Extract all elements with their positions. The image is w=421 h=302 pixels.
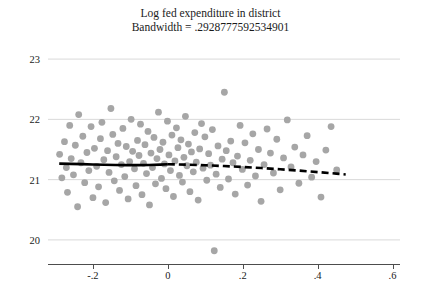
x-tick-label: .6 — [389, 270, 397, 281]
x-tick-label: 0 — [165, 270, 170, 281]
plot-area — [48, 38, 400, 264]
x-axis-line — [48, 264, 400, 265]
x-tick-mark — [393, 265, 394, 269]
x-tick-mark — [93, 265, 94, 269]
x-tick-label: .4 — [314, 270, 322, 281]
y-tick-label: 20 — [30, 234, 41, 245]
y-tick-label: 21 — [30, 174, 41, 185]
chart-title-block: Log fed expenditure in district Bandwidt… — [0, 6, 421, 34]
fit-line-dashed — [168, 164, 346, 174]
fit-line-solid — [59, 164, 168, 166]
chart-title: Log fed expenditure in district — [0, 6, 421, 20]
x-tick-mark — [243, 265, 244, 269]
x-tick-label: -.2 — [87, 270, 98, 281]
y-tick-label: 22 — [30, 114, 41, 125]
chart-container: Log fed expenditure in district Bandwidt… — [0, 0, 421, 302]
x-tick-mark — [318, 265, 319, 269]
x-tick-mark — [168, 265, 169, 269]
fit-lines — [48, 38, 400, 264]
chart-subtitle: Bandwidth = .2928777592534901 — [0, 20, 421, 34]
x-tick-label: .2 — [239, 270, 247, 281]
y-tick-label: 23 — [30, 54, 41, 65]
